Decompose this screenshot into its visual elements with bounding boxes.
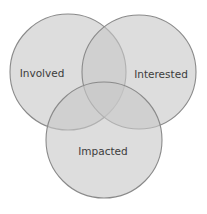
interested-label: Interested [134, 68, 188, 80]
impacted-label: Impacted [78, 145, 127, 157]
impacted-circle [46, 82, 162, 198]
involved-label: Involved [20, 67, 65, 79]
venn-diagram: Involved Interested Impacted [0, 0, 207, 214]
